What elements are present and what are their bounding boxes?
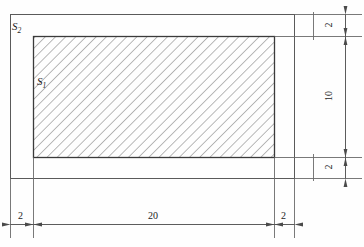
dim-text-bottom-border-height: 2 <box>324 165 334 170</box>
dim-text-top-border-height: 2 <box>324 23 334 28</box>
dimension-drawing-figure: S2 S1 2 20 2 2 10 2 <box>0 0 364 247</box>
region-label-s2: S2 <box>12 21 21 35</box>
region-label-s1: S1 <box>37 76 46 90</box>
inner-hatched-rectangle <box>34 37 275 158</box>
region-label-s2-subscript: 2 <box>18 26 22 35</box>
region-label-s1-subscript: 1 <box>43 81 47 90</box>
dim-text-left-border-width: 2 <box>18 211 23 221</box>
dim-text-right-border-width: 2 <box>281 211 286 221</box>
dim-text-inner-width: 20 <box>148 211 158 221</box>
dim-text-inner-height: 10 <box>324 91 334 101</box>
drawing-canvas <box>0 0 364 247</box>
